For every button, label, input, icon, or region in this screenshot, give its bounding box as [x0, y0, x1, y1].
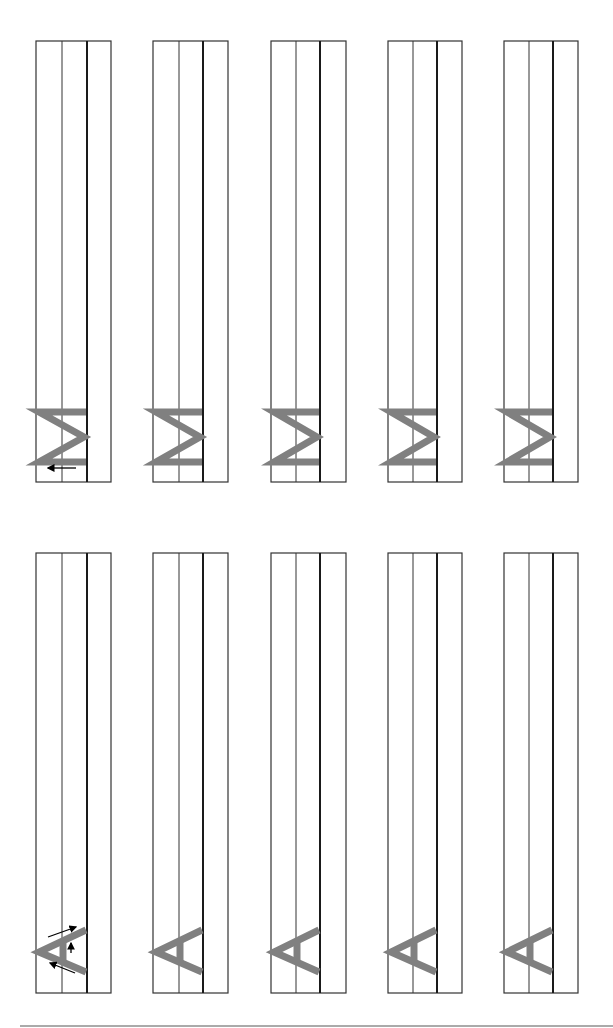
writing-column	[271, 553, 346, 993]
column-border	[153, 553, 228, 993]
column-border	[388, 553, 462, 993]
practice-row-a	[36, 553, 578, 993]
column-border	[271, 553, 346, 993]
worksheet	[0, 0, 613, 1028]
writing-column	[388, 553, 462, 993]
practice-row-m	[36, 41, 578, 482]
column-border	[36, 553, 111, 993]
writing-column	[504, 553, 578, 993]
writing-column	[504, 41, 578, 482]
writing-column	[388, 41, 462, 482]
writing-column	[271, 41, 346, 482]
writing-column	[36, 41, 111, 482]
writing-column	[153, 553, 228, 993]
writing-column	[153, 41, 228, 482]
writing-column	[36, 553, 111, 993]
column-border	[504, 553, 578, 993]
